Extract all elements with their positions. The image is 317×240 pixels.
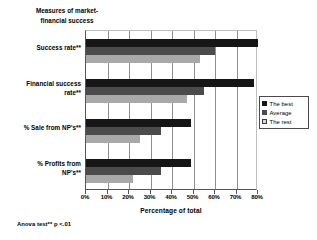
legend-label: The rest [270,119,292,125]
bar [86,87,204,95]
bar [86,39,258,47]
category-label: % Profits from NP's** [7,160,81,177]
legend-item[interactable]: Average [262,108,306,117]
bar [86,127,161,135]
x-axis-tick-labels: 0%10%20%30%40%50%60%70%80% [85,194,257,204]
bar [86,159,191,167]
bar [86,175,133,183]
chart-figure: Measures of market- financial success Su… [0,0,317,240]
legend-item[interactable]: The best [262,99,306,108]
bar-group [86,151,256,191]
bar-group [86,31,256,71]
legend-swatch-icon [262,119,267,124]
legend-swatch-icon [262,110,267,115]
category-label: Success rate** [7,44,81,53]
bar-group [86,111,256,151]
chart-title: Measures of market- financial success [18,6,116,25]
legend: The best Average The rest [259,96,309,129]
bar [86,95,187,103]
legend-label: The best [270,101,293,107]
footnote: Anova test** p <.01 [17,221,71,227]
category-label: % Sale from NP's** [7,124,81,133]
bar [86,47,215,55]
legend-label: Average [270,110,292,116]
bar [86,167,161,175]
bar [86,135,140,143]
category-axis-labels: Success rate** Financial success rate** … [6,30,83,190]
x-axis-title: Percentage of total [85,207,257,214]
bar [86,79,254,87]
bar-group [86,71,256,111]
legend-item[interactable]: The rest [262,117,306,126]
category-label: Financial success rate** [7,80,81,97]
bar [86,55,200,63]
legend-swatch-icon [262,101,267,106]
plot-area [85,30,257,190]
bar-groups [86,31,256,189]
bar [86,119,191,127]
x-axis-tick-label: 80% [244,194,270,200]
